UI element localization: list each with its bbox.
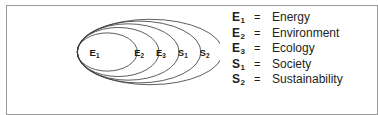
legend-term: Energy: [272, 10, 365, 24]
legend-symbol-subscript: 2: [241, 78, 245, 87]
legend-term: Ecology: [272, 41, 365, 55]
legend-symbol: S2: [232, 72, 254, 86]
legend-symbol: E1: [232, 10, 254, 24]
legend-symbol-subscript: 1: [241, 16, 245, 25]
legend-row: S2 = Sustainability: [232, 72, 365, 88]
ellipse-label-E2: E2: [134, 47, 144, 59]
legend-row: S1 = Society: [232, 57, 365, 73]
legend-row: E1 = Energy: [232, 10, 365, 26]
legend-symbol: S1: [232, 57, 254, 71]
legend-term: Society: [272, 57, 365, 71]
legend-symbol: E3: [232, 41, 254, 55]
legend: E1 = Energy E2 = Environment E3 = Ecolog…: [232, 10, 365, 96]
legend-equals-sign: =: [254, 42, 272, 54]
legend-equals-sign: =: [254, 58, 272, 70]
nested-ellipse-svg: E1E2E3S1S2: [20, 6, 220, 98]
legend-term: Sustainability: [272, 72, 365, 86]
ellipse-E1: [77, 33, 137, 71]
ellipse-label-S1: S1: [178, 47, 188, 59]
legend-symbol-subscript: 2: [241, 32, 245, 41]
legend-equals-sign: =: [254, 11, 272, 23]
nested-ellipse-diagram: E1E2E3S1S2: [20, 6, 220, 98]
legend-term: Environment: [272, 26, 365, 40]
legend-symbol-subscript: 1: [241, 63, 245, 72]
legend-equals-sign: =: [254, 73, 272, 85]
ellipse-label-S2: S2: [200, 47, 210, 59]
legend-symbol-subscript: 3: [241, 47, 245, 56]
legend-row: E2 = Environment: [232, 26, 365, 42]
legend-row: E3 = Ecology: [232, 41, 365, 57]
ellipse-label-E1: E1: [90, 47, 100, 59]
legend-symbol: E2: [232, 26, 254, 40]
legend-equals-sign: =: [254, 27, 272, 39]
ellipse-label-E3: E3: [156, 47, 166, 59]
